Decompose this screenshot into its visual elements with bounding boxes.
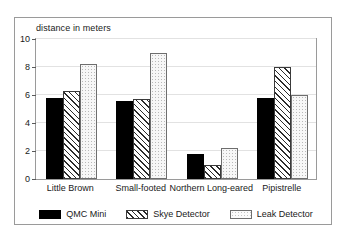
x-axis-label: Northern Long-eared bbox=[169, 183, 253, 193]
bar bbox=[274, 67, 291, 179]
legend-item[interactable]: Leak Detector bbox=[230, 209, 313, 219]
y-tick-label: 10 bbox=[20, 34, 30, 44]
y-tick-label: 2 bbox=[25, 146, 30, 156]
bar bbox=[116, 101, 133, 179]
legend-item[interactable]: QMC Mini bbox=[39, 209, 106, 219]
legend-swatch bbox=[230, 210, 252, 219]
bar bbox=[291, 95, 308, 179]
x-axis-label: Small-footed bbox=[115, 183, 166, 193]
bar-group bbox=[36, 39, 107, 179]
bar bbox=[221, 148, 238, 179]
plot-area: 0246810 bbox=[35, 38, 317, 180]
bar bbox=[187, 154, 204, 179]
legend-label: Leak Detector bbox=[257, 209, 313, 219]
y-tick-label: 6 bbox=[25, 90, 30, 100]
x-axis-label: Pipistrelle bbox=[262, 183, 301, 193]
figure-root: distance in meters 0246810 Little BrownS… bbox=[0, 0, 349, 242]
chart-title: distance in meters bbox=[36, 23, 111, 33]
y-tick-mark bbox=[32, 179, 36, 180]
x-axis-label: Little Brown bbox=[47, 183, 94, 193]
bar bbox=[80, 64, 97, 179]
bar bbox=[63, 91, 80, 179]
chart-legend: QMC MiniSkye DetectorLeak Detector bbox=[35, 206, 317, 222]
legend-label: QMC Mini bbox=[66, 209, 106, 219]
y-tick-label: 8 bbox=[25, 62, 30, 72]
bar-group bbox=[248, 39, 319, 179]
bar bbox=[204, 165, 221, 179]
bar-group bbox=[107, 39, 178, 179]
bar bbox=[133, 99, 150, 179]
legend-swatch bbox=[39, 210, 61, 219]
bar bbox=[46, 98, 63, 179]
bar bbox=[257, 98, 274, 179]
legend-swatch bbox=[126, 210, 148, 219]
y-tick-label: 0 bbox=[25, 174, 30, 184]
plot-inner: 0246810 bbox=[36, 39, 316, 179]
bar-group bbox=[177, 39, 248, 179]
y-tick-label: 4 bbox=[25, 118, 30, 128]
legend-item[interactable]: Skye Detector bbox=[126, 209, 210, 219]
legend-label: Skye Detector bbox=[153, 209, 210, 219]
x-axis-labels: Little BrownSmall-footedNorthern Long-ea… bbox=[35, 183, 317, 197]
bar bbox=[150, 53, 167, 179]
